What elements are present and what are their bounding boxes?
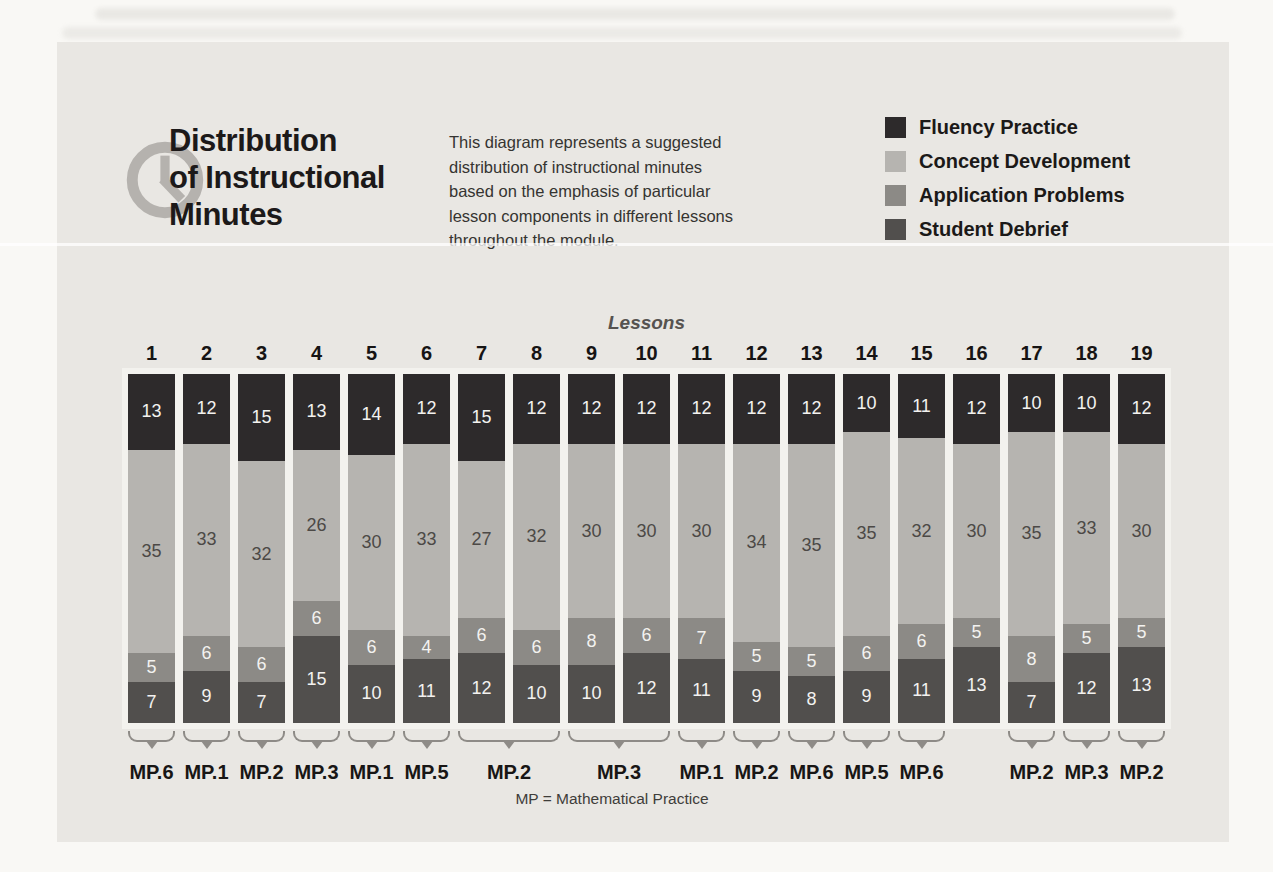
segment-student-debrief: 12: [1063, 653, 1110, 723]
segment-concept-development: 30: [623, 444, 670, 619]
segment-student-debrief: 12: [458, 653, 505, 723]
segment-application-problems: 6: [513, 630, 560, 665]
segment-concept-development: 27: [458, 461, 505, 618]
stacked-bar-lesson-13: 123558: [788, 374, 835, 723]
scan-bleed-artifact: [62, 27, 1182, 39]
stacked-bar-lesson-11: 1230711: [678, 374, 725, 723]
group-brace: [843, 731, 890, 742]
legend-swatch: [885, 151, 906, 172]
lesson-number: 9: [568, 338, 615, 368]
lesson-number: 2: [183, 338, 230, 368]
mp-label: MP.2: [733, 761, 780, 784]
segment-concept-development: 35: [788, 444, 835, 648]
stacked-bar-lesson-9: 1230810: [568, 374, 615, 723]
segment-concept-development: 35: [128, 450, 175, 654]
x-axis-label: Lessons: [128, 312, 1165, 338]
stacked-bar-chart: Lessons 12345678910111213141516171819 13…: [128, 312, 1165, 801]
segment-fluency-practice: 10: [1008, 374, 1055, 432]
segment-application-problems: 6: [238, 647, 285, 682]
segment-application-problems: 6: [348, 630, 395, 665]
footnote: MP = Mathematical Practice: [57, 790, 1167, 808]
stacked-bar-lesson-4: 1326615: [293, 374, 340, 723]
segment-application-problems: 6: [898, 624, 945, 659]
segment-fluency-practice: 12: [568, 374, 615, 444]
segment-concept-development: 30: [1118, 444, 1165, 619]
segment-application-problems: 5: [788, 647, 835, 676]
group-brace: [348, 731, 395, 742]
segment-concept-development: 32: [898, 438, 945, 624]
stacked-bar-lesson-10: 1230612: [623, 374, 670, 723]
mp-label: MP.1: [678, 761, 725, 784]
segment-concept-development: 30: [953, 444, 1000, 619]
mp-label: MP.6: [898, 761, 945, 784]
mp-label: MP.3: [568, 761, 670, 784]
bars-row: 1335571233691532671326615143061012334111…: [128, 374, 1165, 723]
stacked-bar-lesson-14: 103569: [843, 374, 890, 723]
segment-application-problems: 6: [183, 636, 230, 671]
lesson-number: 1: [128, 338, 175, 368]
legend-label: Student Debrief: [919, 218, 1068, 241]
segment-concept-development: 26: [293, 450, 340, 601]
segment-student-debrief: 13: [953, 647, 1000, 723]
group-brace: [183, 731, 230, 742]
stacked-bar-lesson-6: 1233411: [403, 374, 450, 723]
stacked-bar-lesson-5: 1430610: [348, 374, 395, 723]
segment-student-debrief: 15: [293, 636, 340, 723]
legend-label: Concept Development: [919, 150, 1130, 173]
lesson-number: 18: [1063, 338, 1110, 368]
group-brace: [403, 731, 450, 742]
lesson-number: 11: [678, 338, 725, 368]
lesson-number: 13: [788, 338, 835, 368]
segment-concept-development: 32: [238, 461, 285, 647]
legend-label: Application Problems: [919, 184, 1125, 207]
segment-fluency-practice: 10: [843, 374, 890, 432]
segment-application-problems: 5: [1118, 618, 1165, 647]
mp-label: MP.3: [293, 761, 340, 784]
segment-application-problems: 8: [1008, 636, 1055, 683]
segment-student-debrief: 8: [788, 676, 835, 723]
segment-student-debrief: 9: [843, 671, 890, 723]
lesson-number: 6: [403, 338, 450, 368]
segment-fluency-practice: 15: [238, 374, 285, 461]
segment-student-debrief: 11: [898, 659, 945, 723]
segment-application-problems: 6: [623, 618, 670, 653]
lesson-number: 14: [843, 338, 890, 368]
segment-application-problems: 7: [678, 618, 725, 659]
lesson-number: 7: [458, 338, 505, 368]
stacked-bar-lesson-16: 1230513: [953, 374, 1000, 723]
segment-concept-development: 33: [183, 444, 230, 636]
stacked-bar-lesson-1: 133557: [128, 374, 175, 723]
stacked-bar-lesson-8: 1232610: [513, 374, 560, 723]
mp-label: MP.6: [128, 761, 175, 784]
lesson-number: 3: [238, 338, 285, 368]
segment-application-problems: 4: [403, 636, 450, 659]
legend-item: Concept Development: [885, 150, 1130, 172]
segment-student-debrief: 9: [183, 671, 230, 723]
group-brace: [568, 731, 670, 742]
group-brace: [238, 731, 285, 742]
figure-title-line: Distribution: [169, 122, 385, 159]
segment-fluency-practice: 12: [403, 374, 450, 444]
group-brace: [788, 731, 835, 742]
legend-swatch: [885, 185, 906, 206]
lesson-number: 8: [513, 338, 560, 368]
figure-description: This diagram represents a suggested dist…: [449, 130, 737, 253]
segment-fluency-practice: 12: [513, 374, 560, 444]
group-brace: [678, 731, 725, 742]
stacked-bar-lesson-3: 153267: [238, 374, 285, 723]
lesson-number: 19: [1118, 338, 1165, 368]
stacked-bar-lesson-19: 1230513: [1118, 374, 1165, 723]
lesson-number: 10: [623, 338, 670, 368]
segment-fluency-practice: 11: [898, 374, 945, 438]
segment-student-debrief: 7: [1008, 682, 1055, 723]
segment-fluency-practice: 13: [293, 374, 340, 450]
stacked-bar-lesson-12: 123459: [733, 374, 780, 723]
segment-fluency-practice: 12: [1118, 374, 1165, 444]
segment-student-debrief: 10: [568, 665, 615, 723]
stacked-bar-lesson-17: 103587: [1008, 374, 1055, 723]
stacked-bar-lesson-18: 1033512: [1063, 374, 1110, 723]
segment-concept-development: 32: [513, 444, 560, 630]
segment-fluency-practice: 12: [623, 374, 670, 444]
figure-title-line: of Instructional: [169, 159, 385, 196]
mp-label: MP.5: [843, 761, 890, 784]
